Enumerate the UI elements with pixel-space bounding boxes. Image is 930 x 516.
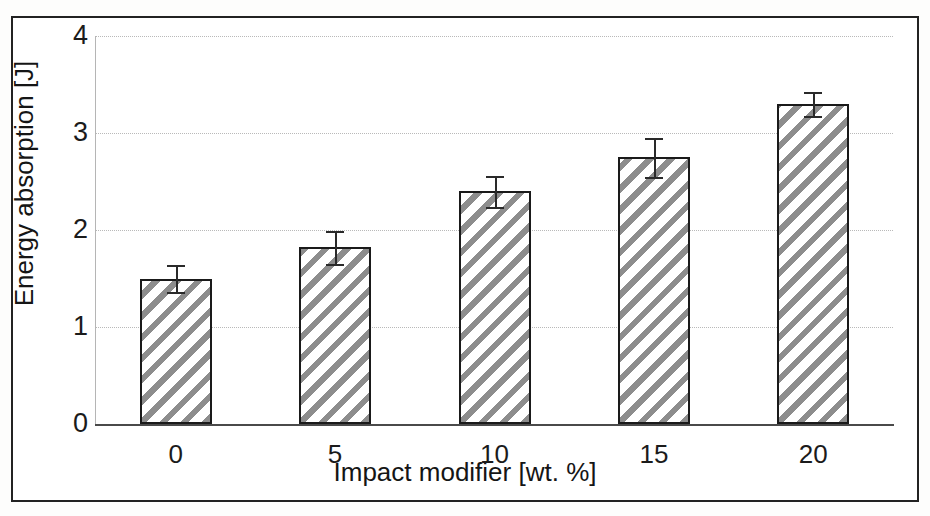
bar-20 [777, 104, 849, 424]
x-tick-label-20: 20 [768, 441, 858, 467]
error-cap-20-lower [804, 116, 822, 118]
error-cap-10-lower [486, 207, 504, 209]
error-cap-15-lower [645, 177, 663, 179]
error-cap-0-lower [167, 292, 185, 294]
bar-5 [299, 247, 371, 424]
y-tick-label-1: 1 [48, 313, 88, 340]
y-axis-title: Energy absorption [J] [9, 0, 40, 384]
x-tick-label-5: 5 [290, 441, 380, 467]
bar-15 [618, 157, 690, 424]
y-tick-label-2: 2 [48, 216, 88, 243]
error-cap-5-upper [326, 231, 344, 233]
figure-canvas: 01234 Energy absorption [J] Impact modif… [0, 0, 930, 516]
x-tick-label-0: 0 [131, 441, 221, 467]
y-tick-label-4: 4 [48, 22, 88, 49]
y-tick-label-0: 0 [48, 410, 88, 437]
gridline-4 [96, 36, 893, 37]
y-tick-label-3: 3 [48, 119, 88, 146]
error-cap-5-lower [326, 264, 344, 266]
x-axis-line [95, 424, 894, 426]
x-tick-label-10: 10 [450, 441, 540, 467]
error-cap-20-upper [804, 92, 822, 94]
error-bar-5 [335, 231, 337, 264]
y-tick-labels: 01234 [36, 0, 88, 516]
bar-0 [140, 279, 212, 425]
error-cap-10-upper [486, 176, 504, 178]
error-bar-0 [176, 265, 178, 292]
plot-area [96, 36, 893, 424]
error-bar-10 [495, 176, 497, 207]
error-cap-15-upper [645, 138, 663, 140]
error-bar-20 [813, 92, 815, 115]
x-tick-label-15: 15 [609, 441, 699, 467]
error-cap-0-upper [167, 265, 185, 267]
error-bar-15 [654, 138, 656, 177]
bar-10 [459, 191, 531, 424]
gridline-3 [96, 133, 893, 134]
